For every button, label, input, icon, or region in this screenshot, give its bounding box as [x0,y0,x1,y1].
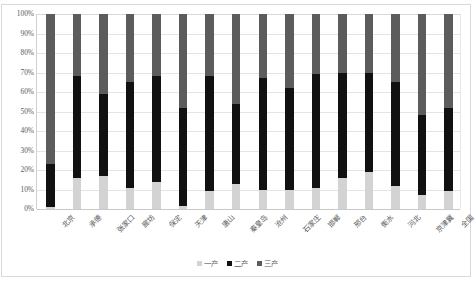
x-axis-tick-label: 邯郸 [325,212,342,229]
bar-segment-一产[interactable] [179,206,188,209]
x-axis-tick-label: 廊坊 [139,212,156,229]
bar-group[interactable] [99,14,108,209]
stacked-bar[interactable] [418,14,427,209]
stacked-bar[interactable] [338,14,347,209]
bar-segment-三产[interactable] [285,14,294,88]
bar-group[interactable] [126,14,135,209]
bar-segment-一产[interactable] [338,178,347,209]
bar-segment-二产[interactable] [391,82,400,185]
stacked-bar[interactable] [179,14,188,209]
bar-segment-一产[interactable] [391,186,400,209]
bar-segment-二产[interactable] [99,94,108,176]
y-axis: 100%90%80%70%60%50%40%30%20%10%0% [0,14,34,209]
bar-segment-三产[interactable] [126,14,135,82]
x-axis-tick-label: 衡水 [378,212,395,229]
plot-area [36,14,461,209]
y-axis-tick-label: 0% [2,205,34,213]
bar-segment-一产[interactable] [152,182,161,209]
stacked-bar[interactable] [365,14,374,209]
bar-segment-三产[interactable] [391,14,400,82]
bar-segment-二产[interactable] [312,74,321,187]
bar-group[interactable] [205,14,214,209]
bar-segment-三产[interactable] [418,14,427,115]
bar-group[interactable] [46,14,55,209]
bar-segment-三产[interactable] [46,14,55,164]
bar-group[interactable] [179,14,188,209]
bar-segment-二产[interactable] [259,78,268,189]
x-axis-tick-label: 保定 [166,212,183,229]
bar-segment-三产[interactable] [444,14,453,108]
bar-segment-二产[interactable] [365,73,374,172]
y-axis-tick-label: 90% [2,30,34,38]
bar-segment-三产[interactable] [73,14,82,76]
bar-segment-一产[interactable] [285,190,294,210]
bar-segment-一产[interactable] [99,176,108,209]
bar-segment-二产[interactable] [232,104,241,184]
bar-segment-三产[interactable] [152,14,161,76]
stacked-bar[interactable] [152,14,161,209]
bar-group[interactable] [259,14,268,209]
bar-group[interactable] [391,14,400,209]
bar-segment-一产[interactable] [259,190,268,210]
bar-group[interactable] [232,14,241,209]
x-axis-tick-label: 京津冀 [433,212,455,234]
bar-segment-一产[interactable] [73,178,82,209]
bar-segment-一产[interactable] [365,172,374,209]
bar-segment-一产[interactable] [232,184,241,209]
stacked-bar[interactable] [99,14,108,209]
bar-group[interactable] [285,14,294,209]
bar-segment-一产[interactable] [126,188,135,209]
bar-segment-三产[interactable] [205,14,214,76]
bar-segment-一产[interactable] [205,191,214,209]
bar-segment-三产[interactable] [338,14,347,73]
bar-segment-一产[interactable] [418,195,427,209]
legend-item[interactable]: 二产 [227,259,248,268]
bar-segment-二产[interactable] [126,82,135,187]
y-axis-tick-label: 50% [2,108,34,116]
legend-swatch-icon [197,261,202,266]
bar-segment-二产[interactable] [205,76,214,191]
bar-segment-二产[interactable] [285,88,294,189]
bar-segment-二产[interactable] [418,115,427,195]
bar-segment-一产[interactable] [46,207,55,209]
bar-segment-三产[interactable] [232,14,241,104]
bar-segment-二产[interactable] [152,76,161,181]
stacked-bar[interactable] [259,14,268,209]
bar-group[interactable] [152,14,161,209]
bar-group[interactable] [312,14,321,209]
bar-segment-三产[interactable] [99,14,108,94]
stacked-bar[interactable] [46,14,55,209]
stacked-bar[interactable] [205,14,214,209]
bar-segment-二产[interactable] [179,108,188,206]
bar-group[interactable] [444,14,453,209]
bar-segment-三产[interactable] [179,14,188,108]
bar-group[interactable] [338,14,347,209]
stacked-bar[interactable] [391,14,400,209]
stacked-bar[interactable] [285,14,294,209]
bar-segment-三产[interactable] [259,14,268,78]
bar-segment-一产[interactable] [444,191,453,209]
bar-segment-三产[interactable] [312,14,321,74]
x-axis-tick-label: 唐山 [219,212,236,229]
x-axis-tick-label: 张家口 [115,212,137,234]
legend-item[interactable]: 一产 [197,259,218,268]
x-axis-tick-label: 承德 [86,212,103,229]
bar-segment-二产[interactable] [73,76,82,177]
stacked-bar[interactable] [126,14,135,209]
bar-group[interactable] [418,14,427,209]
stacked-bar[interactable] [312,14,321,209]
bar-segment-二产[interactable] [338,73,347,178]
bar-group[interactable] [365,14,374,209]
legend-item[interactable]: 三产 [257,259,278,268]
stacked-bar[interactable] [73,14,82,209]
bar-group[interactable] [73,14,82,209]
bar-segment-一产[interactable] [312,188,321,209]
bar-segment-三产[interactable] [365,14,374,73]
legend-label: 一产 [204,259,218,268]
stacked-bar[interactable] [444,14,453,209]
legend-label: 二产 [234,259,248,268]
stacked-bar[interactable] [232,14,241,209]
x-axis-tick-label: 沧州 [272,212,289,229]
bar-segment-二产[interactable] [444,108,453,192]
bar-segment-二产[interactable] [46,164,55,207]
